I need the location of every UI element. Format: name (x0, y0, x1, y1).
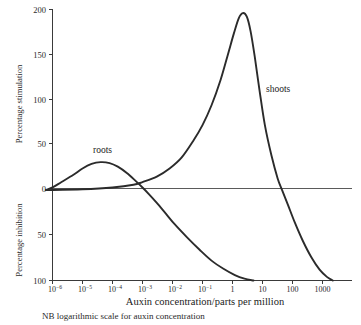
x-tick-base: 10 (168, 285, 176, 294)
x-tick-label-1e-5: 10−5 (78, 284, 92, 295)
y-tick-label-100: 100 (33, 95, 46, 105)
x-axis-ticks (53, 281, 323, 285)
x-tick-base: 10 (198, 285, 206, 294)
x-tick-label-1: 1 (231, 285, 235, 294)
x-tick-base: 10 (138, 285, 146, 294)
y-tick-label-50: 50 (38, 139, 47, 149)
roots-curve-label: roots (93, 145, 112, 155)
y-tick-label-0: 0 (42, 184, 46, 194)
x-tick-label-100: 100 (287, 285, 299, 294)
x-tick-label-1e-3: 10−3 (138, 284, 152, 295)
svg-text:10−2: 10−2 (168, 284, 182, 295)
y-tick-label-minus100: 100 (33, 276, 46, 286)
y-tick-label-200: 200 (33, 5, 46, 15)
x-tick-base: 10 (48, 285, 56, 294)
auxin-response-figure: 200 150 100 50 0 50 100 10−6 (0, 0, 361, 325)
svg-text:10−6: 10−6 (48, 284, 62, 295)
x-tick-exponent: −3 (146, 284, 152, 290)
x-tick-exponent: −2 (176, 284, 182, 290)
x-tick-label-10: 10 (259, 285, 267, 294)
x-tick-exponent: −6 (56, 284, 62, 290)
log-scale-note: NB logarithmic scale for auxin concentra… (42, 311, 205, 321)
x-tick-exponent: −5 (86, 284, 92, 290)
x-tick-label-1e-1: 10−1 (198, 284, 212, 295)
x-tick-label-1e-2: 10−2 (168, 284, 182, 295)
shoots-curve-label: shoots (266, 84, 291, 94)
svg-text:10−3: 10−3 (138, 284, 152, 295)
x-tick-label-1000: 1000 (315, 285, 331, 294)
y-axis-ticks-lower (49, 235, 53, 281)
svg-text:10−5: 10−5 (78, 284, 92, 295)
x-tick-base: 10 (108, 285, 116, 294)
y-axis-ticks-upper (49, 10, 53, 189)
x-axis-title: Auxin concentration/parts per million (126, 296, 285, 307)
x-tick-label-1e-4: 10−4 (108, 284, 122, 295)
y-tick-label-150: 150 (33, 50, 46, 60)
x-tick-label-1e-6: 10−6 (48, 284, 62, 295)
svg-text:10−1: 10−1 (198, 284, 212, 295)
x-tick-base: 10 (78, 285, 86, 294)
y-axis-title-upper: Percentage stimulation (14, 64, 24, 143)
y-tick-label-minus50: 50 (38, 230, 47, 240)
chart-canvas: 200 150 100 50 0 50 100 10−6 (0, 0, 361, 325)
x-tick-exponent: −1 (206, 284, 212, 290)
svg-text:10−4: 10−4 (108, 284, 122, 295)
x-tick-exponent: −4 (116, 284, 122, 290)
y-axis-title-lower: Percentage inhibition (14, 203, 24, 277)
